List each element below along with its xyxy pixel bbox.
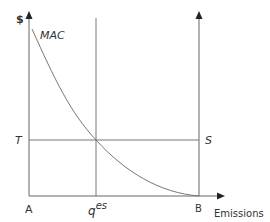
q-es-label: qes (88, 200, 107, 218)
x-axis-label: Emissions (214, 208, 264, 219)
t-label: T (15, 134, 23, 147)
curve-label: MAC (40, 29, 65, 42)
y-axis-left-arrow-icon (26, 11, 33, 19)
y-axis-right-arrow-icon (196, 11, 203, 19)
mac-curve (32, 29, 199, 196)
q-es-sup: es (96, 200, 107, 211)
origin-label: A (25, 203, 33, 216)
b-label: B (195, 203, 202, 214)
y-axis-label: $ (16, 13, 24, 26)
x-axis-arrow-icon (217, 193, 225, 200)
s-label: S (205, 134, 212, 147)
mac-diagram: $ MAC T S A qes B Emissions (0, 0, 270, 222)
